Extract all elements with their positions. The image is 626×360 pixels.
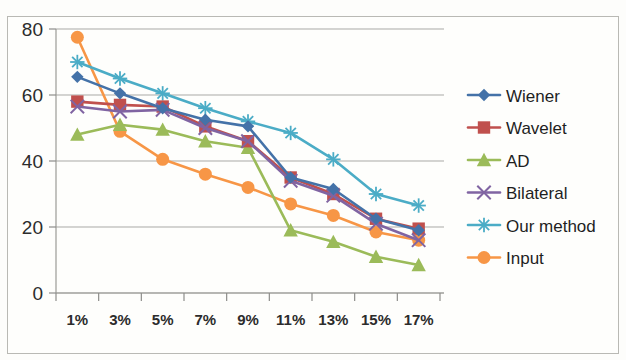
y-axis-ticks <box>49 29 56 293</box>
legend-label: Our method <box>506 217 596 236</box>
x-tick-label: 11% <box>276 311 305 328</box>
data-point-asterisk <box>369 187 383 201</box>
legend-item-bilateral[interactable]: Bilateral <box>468 184 567 203</box>
data-point-asterisk <box>283 126 297 140</box>
x-axis-labels: 1%3%5%7%9%11%13%15%17% <box>66 311 433 328</box>
data-point-square <box>478 121 490 133</box>
legend-item-ad[interactable]: AD <box>468 152 530 171</box>
legend-item-wiener[interactable]: Wiener <box>468 87 560 106</box>
y-tick-label: 60 <box>22 85 43 106</box>
y-tick-label: 80 <box>22 19 43 40</box>
chart-legend: WienerWaveletADBilateralOur methodInput <box>468 87 596 269</box>
data-point-circle <box>199 168 212 181</box>
y-axis-labels: 020406080 <box>22 19 43 304</box>
data-point-diamond <box>478 89 490 101</box>
data-point-circle <box>71 31 84 44</box>
x-axis-ticks <box>56 293 440 301</box>
chart-svg: 020406080 1%3%5%7%9%11%13%15%17% WienerW… <box>0 0 626 360</box>
legend-label: Input <box>506 249 544 268</box>
y-tick-label: 20 <box>22 217 43 238</box>
chart-page: 020406080 1%3%5%7%9%11%13%15%17% WienerW… <box>0 0 626 360</box>
data-point-asterisk <box>113 71 127 85</box>
data-point-asterisk <box>70 55 84 69</box>
y-tick-label: 0 <box>32 283 43 304</box>
data-point-diamond <box>71 71 83 83</box>
x-tick-label: 15% <box>361 311 391 328</box>
data-series <box>70 31 426 271</box>
legend-item-input[interactable]: Input <box>468 249 544 268</box>
data-point-circle <box>242 181 255 194</box>
data-point-asterisk <box>155 86 169 100</box>
legend-label: Wavelet <box>506 119 567 138</box>
x-tick-label: 9% <box>237 311 259 328</box>
y-tick-label: 40 <box>22 151 43 172</box>
data-point-diamond <box>114 87 126 99</box>
legend-item-our-method[interactable]: Our method <box>468 217 596 236</box>
data-point-triangle <box>283 223 297 236</box>
line-chart: 020406080 1%3%5%7%9%11%13%15%17% WienerW… <box>0 0 626 360</box>
x-tick-label: 7% <box>194 311 216 328</box>
x-tick-label: 13% <box>318 311 348 328</box>
data-point-circle <box>478 251 491 264</box>
data-point-square <box>114 99 126 111</box>
legend-label: Wiener <box>506 87 560 106</box>
data-point-circle <box>156 153 169 166</box>
legend-label: AD <box>506 152 530 171</box>
data-point-asterisk <box>326 152 340 166</box>
data-point-asterisk <box>477 218 491 232</box>
data-point-circle <box>284 197 297 210</box>
legend-item-wavelet[interactable]: Wavelet <box>468 119 567 138</box>
data-point-asterisk <box>198 101 212 115</box>
x-tick-label: 5% <box>152 311 174 328</box>
x-tick-label: 1% <box>66 311 88 328</box>
x-tick-label: 3% <box>109 311 131 328</box>
x-tick-label: 17% <box>404 311 434 328</box>
legend-label: Bilateral <box>506 184 567 203</box>
gridlines <box>56 29 444 293</box>
data-point-asterisk <box>411 198 425 212</box>
data-point-circle <box>327 209 340 222</box>
